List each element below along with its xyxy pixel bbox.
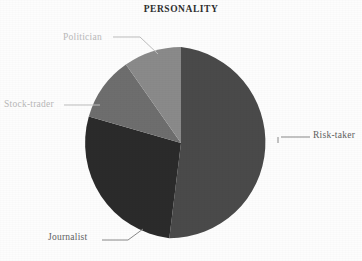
pie-slice-risk-taker[interactable] xyxy=(169,47,265,238)
pie-label-politician: Politician xyxy=(63,32,102,42)
leader-line-politician xyxy=(113,37,158,54)
pie-label-stock-trader: Stock-trader xyxy=(4,99,54,109)
pie-label-risk-taker: Risk-taker xyxy=(313,130,355,140)
pie-chart-figure: PERSONALITY Politician Stock-trader Jour… xyxy=(0,0,362,261)
leader-line-risk-taker xyxy=(278,137,310,143)
chart-title: PERSONALITY xyxy=(0,4,362,14)
pie-label-journalist: Journalist xyxy=(48,232,87,242)
leader-line-journalist xyxy=(102,229,143,240)
pie-chart-graphic xyxy=(0,0,362,261)
